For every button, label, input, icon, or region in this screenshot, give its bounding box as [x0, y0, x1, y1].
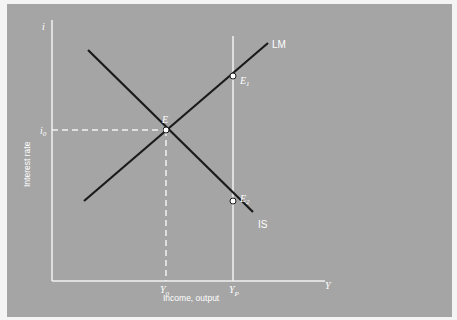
y-axis-symbol: i	[42, 21, 45, 32]
equilibrium-point-e2	[230, 198, 236, 204]
equilibrium-point-e1	[230, 73, 236, 79]
point-e-label: E	[161, 114, 168, 125]
x-axis-label: Income, output	[163, 293, 220, 303]
is-lm-diagram: LM IS E E1 E2 i Y i0 Y0 YP Income, outpu…	[0, 0, 457, 320]
lm-label: LM	[272, 39, 286, 50]
equilibrium-point-e	[163, 127, 169, 133]
diagram-background	[7, 4, 452, 317]
y-axis-label: Interest rate	[22, 141, 32, 187]
is-label: IS	[258, 219, 268, 230]
